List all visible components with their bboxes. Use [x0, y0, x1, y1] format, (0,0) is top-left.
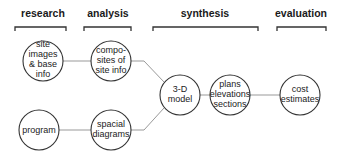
synthesis-bracket: [153, 27, 258, 31]
phase-analysis-label: analysis: [87, 7, 129, 19]
svg-text:compo-: compo-: [96, 45, 126, 55]
node-program: program: [19, 110, 59, 150]
node-cost-estimates: cost estimates: [280, 75, 320, 115]
research-bracket: [15, 27, 66, 31]
node-3d-model: 3-D model: [160, 75, 200, 115]
analysis-bracket: [84, 27, 131, 31]
design-process-diagram: research analysis synthesis evaluation s…: [0, 0, 339, 165]
svg-text:estimates: estimates: [281, 94, 320, 104]
svg-text:diagrams: diagrams: [92, 129, 130, 139]
edge-spacial-to-model: [131, 108, 164, 130]
svg-text:elevations: elevations: [210, 89, 251, 99]
svg-text:images: images: [28, 49, 58, 59]
node-plans: plans elevations sections: [210, 75, 251, 115]
edge-composites-to-model: [131, 61, 164, 82]
svg-text:site info: site info: [95, 65, 126, 75]
svg-text:model: model: [168, 94, 193, 104]
svg-text:plans: plans: [219, 79, 241, 89]
phase-evaluation-label: evaluation: [275, 7, 327, 19]
phase-synthesis-label: synthesis: [181, 7, 230, 19]
phase-research-label: research: [21, 7, 65, 19]
svg-text:& base: & base: [29, 59, 57, 69]
node-spacial-diagrams: spacial diagrams: [91, 110, 131, 150]
svg-text:spacial: spacial: [97, 119, 125, 129]
svg-text:sites of: sites of: [97, 55, 126, 65]
svg-text:site: site: [36, 39, 50, 49]
evaluation-bracket: [277, 27, 326, 31]
svg-text:cost: cost: [292, 84, 309, 94]
node-composites: compo- sites of site info: [91, 41, 131, 81]
svg-text:3-D: 3-D: [173, 84, 188, 94]
svg-text:program: program: [22, 125, 56, 135]
node-site-images: site images & base info: [23, 39, 63, 81]
svg-text:info: info: [36, 69, 51, 79]
svg-text:sections: sections: [213, 99, 247, 109]
